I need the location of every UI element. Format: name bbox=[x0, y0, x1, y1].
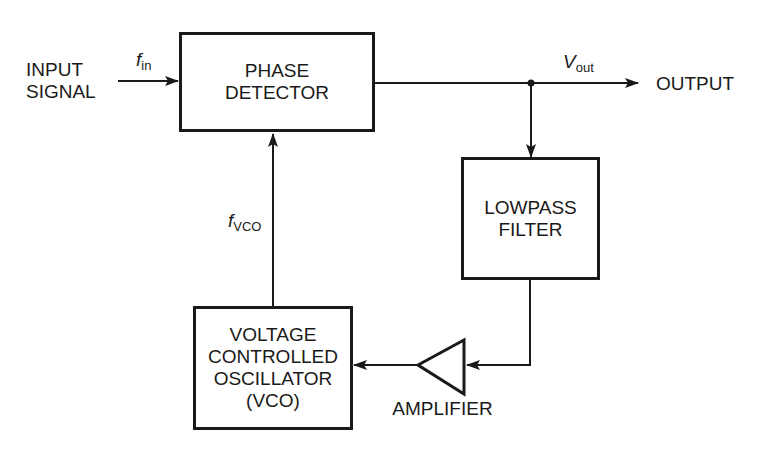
input-signal-label: INPUT SIGNAL bbox=[26, 59, 96, 103]
input-label-line2: SIGNAL bbox=[26, 81, 96, 103]
f-in-subscript: in bbox=[141, 58, 151, 73]
f-vco-subscript: VCO bbox=[233, 219, 261, 234]
lowpass-filter-line1: LOWPASS bbox=[484, 197, 577, 219]
phase-detector-block: PHASE DETECTOR bbox=[179, 32, 375, 132]
phase-detector-line2: DETECTOR bbox=[225, 82, 329, 104]
vco-line4: (VCO) bbox=[208, 390, 338, 412]
input-label-line1: INPUT bbox=[26, 59, 96, 81]
f-in-label: fin bbox=[136, 49, 151, 77]
vco-line3: OSCILLATOR bbox=[208, 368, 338, 390]
vco-line2: CONTROLLED bbox=[208, 346, 338, 368]
v-out-label: Vout bbox=[563, 51, 594, 79]
v-out-subscript: out bbox=[576, 60, 594, 75]
amplifier-label: AMPLIFIER bbox=[385, 398, 500, 420]
output-label: OUTPUT bbox=[656, 73, 734, 95]
vco-block: VOLTAGE CONTROLLED OSCILLATOR (VCO) bbox=[193, 306, 353, 430]
lowpass-filter-line2: FILTER bbox=[484, 219, 577, 241]
lowpass-filter-block: LOWPASS FILTER bbox=[461, 157, 600, 280]
amplifier-triangle bbox=[418, 340, 464, 394]
v-out-symbol: V bbox=[563, 51, 576, 72]
f-vco-label: fVCO bbox=[228, 210, 261, 238]
connections-layer bbox=[0, 0, 759, 452]
phase-detector-line1: PHASE bbox=[225, 60, 329, 82]
vco-line1: VOLTAGE bbox=[208, 324, 338, 346]
filter-to-amplifier-line bbox=[467, 280, 530, 365]
